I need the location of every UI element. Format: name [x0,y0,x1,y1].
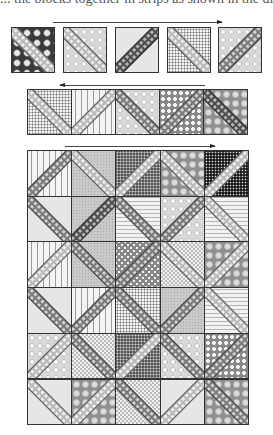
grid-cell-r2-c5 [204,196,249,243]
grid-cell-r3-c4 [160,241,205,288]
strip-block-5 [203,89,248,135]
block-2 [63,27,107,73]
grid-cell-r4-c4 [160,287,205,334]
grid-cell-r5-c4 [160,333,205,380]
grid-cell-r2-c2 [71,196,116,243]
arrow-left-icon [60,85,205,86]
grid-cell-r6-c5 [204,379,249,426]
grid-cell-r4-c5 [204,287,249,334]
grid-cell-r3-c2 [71,241,116,288]
grid-cell-r2-c4 [160,196,205,243]
grid-cell-r6-c3 [115,379,160,426]
grid-cell-r6-c1 [27,379,72,426]
grid-cell-r6-c4 [160,379,205,426]
grid-cell-r1-c4 [160,150,205,197]
grid-cell-r5-c2 [71,333,116,380]
grid-cell-r1-c3 [115,150,160,197]
strip-block-4 [159,89,204,135]
grid-cell-r5-c3 [115,333,160,380]
block-5 [218,27,262,73]
strip-block-1 [27,89,72,135]
grid-cell-r1-c2 [71,150,116,197]
strip-block-2 [71,89,116,135]
block-3 [115,27,159,73]
grid-cell-r3-c5 [204,241,249,288]
block-4 [167,27,211,73]
arrow-right-icon [65,146,215,147]
grid-cell-r5-c5 [204,333,249,380]
grid-cell-r6-c2 [71,379,116,426]
strip-block-3 [115,89,160,135]
grid-cell-r4-c2 [71,287,116,334]
arrow-right-icon [53,22,222,23]
grid-cell-r1-c5 [204,150,249,197]
grid-cell-r3-c3 [115,241,160,288]
grid-cell-r5-c1 [27,333,72,380]
grid-cell-r3-c1 [27,241,72,288]
block-1 [11,27,55,73]
grid-cell-r2-c1 [27,196,72,243]
grid-cell-r4-c1 [27,287,72,334]
caption-text: ... the blocks together in strips as sho… [0,0,273,7]
grid-cell-r1-c1 [27,150,72,197]
grid-cell-r4-c3 [115,287,160,334]
grid-cell-r2-c3 [115,196,160,243]
